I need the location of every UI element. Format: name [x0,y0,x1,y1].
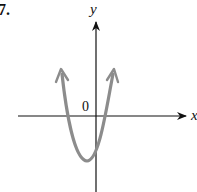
y-axis-label: y [90,2,97,17]
parabola-curve [62,74,113,161]
x-axis-label: x [191,108,197,123]
origin-label: 0 [82,100,89,114]
parabola-graph [0,0,197,192]
problem-number: 7. [0,2,10,18]
